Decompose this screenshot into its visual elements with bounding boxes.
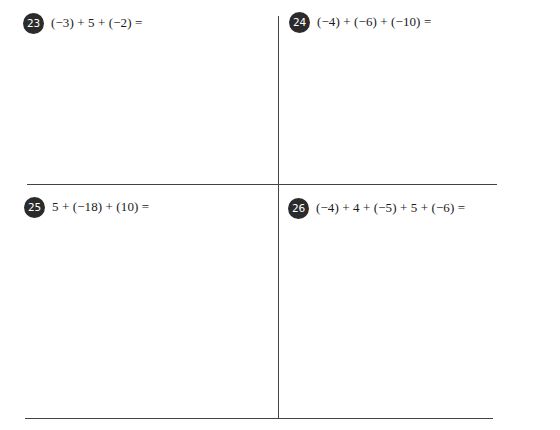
problem-expression: (−4) + (−6) + (−10) = xyxy=(317,14,431,30)
problem-number-badge: 23 xyxy=(23,13,44,34)
problem-number-badge: 26 xyxy=(288,198,309,219)
problem-25: 25 5 + (−18) + (10) = xyxy=(24,196,149,218)
problem-26: 26 (−4) + 4 + (−5) + 5 + (−6) = xyxy=(288,197,465,219)
problem-23: 23 (−3) + 5 + (−2) = xyxy=(23,12,142,34)
vertical-divider xyxy=(278,16,279,419)
problem-expression: 5 + (−18) + (10) = xyxy=(52,199,149,215)
problem-number-badge: 24 xyxy=(289,12,310,33)
problem-24: 24 (−4) + (−6) + (−10) = xyxy=(289,11,431,33)
problem-number-badge: 25 xyxy=(24,197,45,218)
bottom-horizontal-rule xyxy=(25,418,493,419)
middle-horizontal-divider xyxy=(27,184,497,185)
math-worksheet: 23 (−3) + 5 + (−2) = 24 (−4) + (−6) + (−… xyxy=(0,0,560,430)
problem-expression: (−4) + 4 + (−5) + 5 + (−6) = xyxy=(316,200,465,216)
problem-expression: (−3) + 5 + (−2) = xyxy=(51,15,142,31)
